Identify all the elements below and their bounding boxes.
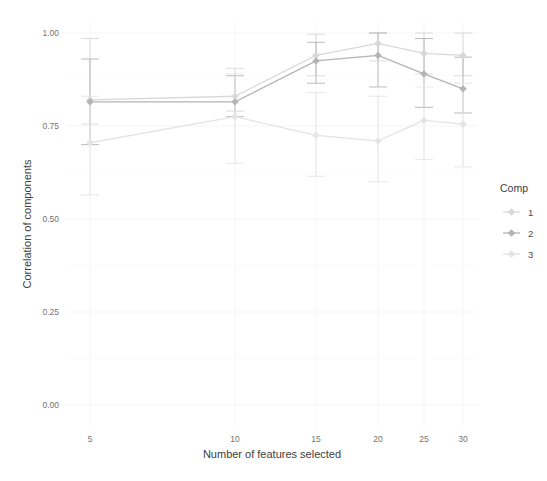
x-axis-title: Number of features selected — [203, 448, 341, 460]
x-tick-label: 10 — [230, 434, 240, 444]
x-tick-label: 25 — [419, 434, 429, 444]
x-tick-label: 30 — [458, 434, 468, 444]
line-chart-svg: 0.000.250.500.751.00 51015202530 Correla… — [0, 0, 547, 481]
y-tick-label: 0.00 — [42, 400, 59, 410]
chart-figure: 0.000.250.500.751.00 51015202530 Correla… — [0, 0, 547, 481]
x-tick-label: 5 — [88, 434, 93, 444]
x-tick-label: 20 — [373, 434, 383, 444]
legend-item-label: 1 — [528, 207, 533, 218]
y-tick-label: 0.25 — [42, 307, 59, 317]
y-tick-label: 0.75 — [42, 121, 59, 131]
legend-item-label: 2 — [528, 228, 533, 239]
legend-item-label: 3 — [528, 249, 533, 260]
y-axis-title: Correlation of components — [21, 159, 33, 289]
y-tick-label: 1.00 — [42, 28, 59, 38]
y-tick-label: 0.50 — [42, 214, 59, 224]
x-tick-label: 15 — [311, 434, 321, 444]
legend-title: Comp — [500, 182, 528, 194]
